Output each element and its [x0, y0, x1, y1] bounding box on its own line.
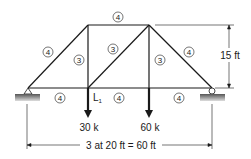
member-label-right-vertical: 3	[155, 55, 165, 65]
svg-text:3: 3	[77, 56, 82, 65]
member-label-right-diagonal: 4	[184, 47, 194, 57]
svg-text:4: 4	[117, 94, 122, 103]
svg-text:3: 3	[111, 45, 116, 54]
load-label-60k: 60 k	[141, 122, 161, 133]
svg-text:4: 4	[177, 94, 182, 103]
svg-text:4: 4	[116, 13, 121, 22]
member-label-bottom-right: 4	[174, 93, 184, 103]
svg-text:4: 4	[46, 48, 51, 57]
svg-text:4: 4	[58, 94, 63, 103]
member-label-bottom-left: 4	[55, 93, 65, 103]
member-label-top-chord: 4	[113, 12, 123, 22]
member-label-left-diagonal: 4	[43, 47, 53, 57]
span-label: 3 at 20 ft = 60 ft	[86, 140, 156, 151]
load-label-30k: 30 k	[80, 122, 100, 133]
svg-text:3: 3	[158, 56, 163, 65]
roller-support	[200, 88, 225, 101]
svg-text:4: 4	[187, 48, 192, 57]
member-label-left-vertical: 3	[74, 55, 84, 65]
load-arrow-30k	[84, 88, 92, 118]
truss-diagram: 15 ft 30 k 60 k L1 3 at 20 ft = 60 ft 4 …	[0, 0, 251, 159]
member-label-center-diagonal: 3	[108, 44, 118, 54]
joint-label: L1	[93, 92, 103, 104]
pin-support	[15, 88, 40, 101]
member-label-bottom-center: 4	[114, 93, 124, 103]
load-arrow-60k	[145, 88, 153, 118]
center-diagonal	[88, 25, 149, 88]
height-label: 15 ft	[220, 50, 240, 61]
